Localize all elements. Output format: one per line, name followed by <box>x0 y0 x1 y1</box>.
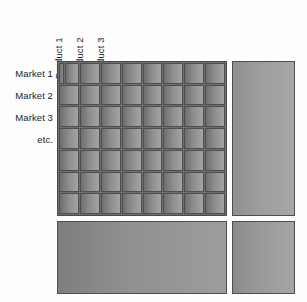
matrix-cell <box>143 85 163 106</box>
matrix-cell <box>163 106 183 127</box>
matrix-cell <box>163 85 183 106</box>
matrix-cell <box>101 85 121 106</box>
matrix-cell <box>122 193 142 214</box>
matrix-cell <box>122 128 142 149</box>
matrix-cell <box>80 63 100 84</box>
matrix-cell <box>122 85 142 106</box>
matrix-cell <box>122 150 142 171</box>
matrix-cell <box>122 172 142 193</box>
matrix-cell <box>122 106 142 127</box>
matrix-cell <box>101 128 121 149</box>
matrix-cell <box>205 172 225 193</box>
matrix-cell <box>143 193 163 214</box>
matrix-cell <box>163 172 183 193</box>
row-label-etc: etc. <box>0 134 53 145</box>
matrix-cell <box>184 193 204 214</box>
matrix-cell <box>80 193 100 214</box>
matrix-cell <box>80 106 100 127</box>
row-label-market-3: Market 3 <box>0 112 53 123</box>
matrix-cell <box>163 63 183 84</box>
matrix-grid <box>57 61 227 216</box>
matrix-cell <box>59 106 79 127</box>
matrix-cell <box>143 63 163 84</box>
matrix-cell-sliver <box>59 63 64 84</box>
matrix-cell <box>101 106 121 127</box>
matrix-cell <box>184 106 204 127</box>
matrix-cell <box>143 128 163 149</box>
right-side-panel <box>232 61 295 216</box>
matrix-cell <box>205 63 225 84</box>
matrix-cell <box>205 128 225 149</box>
matrix-cell <box>163 128 183 149</box>
matrix-cell <box>205 106 225 127</box>
matrix-cell <box>163 193 183 214</box>
matrix-cell <box>101 172 121 193</box>
matrix-cell <box>59 150 79 171</box>
matrix-cell <box>143 150 163 171</box>
matrix-cell <box>184 63 204 84</box>
matrix-cell <box>80 128 100 149</box>
matrix-cell <box>205 150 225 171</box>
matrix-cell <box>163 150 183 171</box>
row-label-market-2: Market 2 <box>0 90 53 101</box>
matrix-cell <box>205 85 225 106</box>
matrix-cell <box>101 193 121 214</box>
bottom-side-panel <box>232 221 295 294</box>
matrix-cell <box>59 128 79 149</box>
matrix-cell <box>101 63 121 84</box>
matrix-cell <box>101 150 121 171</box>
matrix-cell <box>65 63 79 84</box>
matrix-cell <box>80 85 100 106</box>
matrix-cell <box>59 63 79 84</box>
matrix-cell <box>80 172 100 193</box>
matrix-cell <box>205 193 225 214</box>
matrix-cell <box>184 150 204 171</box>
matrix-cell <box>59 172 79 193</box>
matrix-cell <box>59 85 79 106</box>
diagram-canvas: Product 1 Product 2 Product 3 etc. Marke… <box>0 0 307 302</box>
row-label-market-1: Market 1 <box>0 68 53 79</box>
matrix-cell <box>184 128 204 149</box>
matrix-cell <box>80 150 100 171</box>
matrix-cell <box>184 85 204 106</box>
matrix-cell <box>143 106 163 127</box>
bottom-main-panel <box>57 221 227 294</box>
matrix-cell <box>59 193 79 214</box>
matrix-cell <box>184 172 204 193</box>
matrix-cell <box>143 172 163 193</box>
matrix-cell <box>122 63 142 84</box>
